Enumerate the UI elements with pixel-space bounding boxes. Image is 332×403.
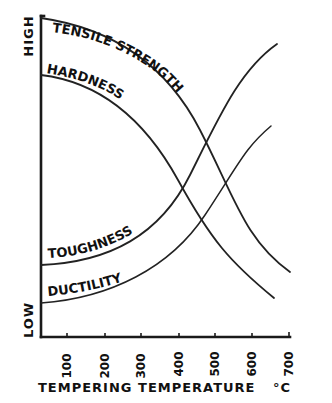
tensile-strength-label: TENSILE STRENGTH: [52, 20, 187, 95]
x-tick-label-300: 300: [134, 353, 148, 378]
x-tick-label-100: 100: [60, 353, 74, 378]
x-axis-title: TEMPERING TEMPERATURE: [38, 380, 256, 395]
x-tick-labels: 100 200 300 400 500 600 700: [60, 351, 296, 378]
toughness-label-text: TOUGHNESS: [47, 222, 135, 261]
toughness-label: TOUGHNESS: [47, 222, 135, 261]
ductility-label: DUCTILITY: [47, 270, 124, 299]
hardness-label-text: HARDNESS: [46, 61, 127, 102]
x-tick-label-600: 600: [245, 351, 259, 376]
x-tick-label-400: 400: [172, 351, 186, 376]
x-tick-label-500: 500: [208, 351, 222, 376]
hardness-label: HARDNESS: [46, 61, 127, 102]
x-tick-label-200: 200: [98, 353, 112, 378]
y-label-high: HIGH: [21, 15, 36, 56]
ductility-curve: [41, 126, 271, 303]
curves: [41, 18, 290, 303]
tensile-strength-label-text: TENSILE STRENGTH: [52, 20, 187, 95]
ductility-label-text: DUCTILITY: [47, 270, 124, 299]
y-label-low: LOW: [21, 302, 36, 338]
x-axis-unit: °C: [273, 380, 291, 395]
x-tick-label-700: 700: [282, 351, 296, 376]
property-vs-tempering-chart: 100 200 300 400 500 600 700 TEMPERING TE…: [0, 0, 332, 403]
